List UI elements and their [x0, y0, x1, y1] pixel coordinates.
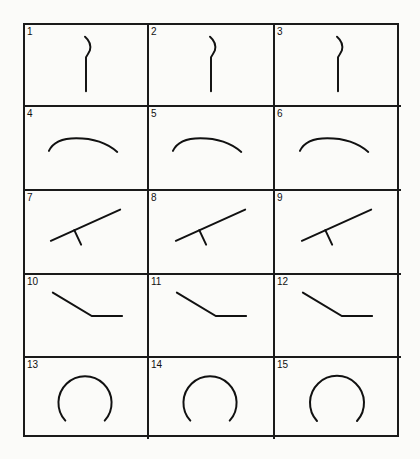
cell-4: 4: [25, 107, 149, 191]
open-circle-icon: [25, 358, 147, 439]
cell-12: 12: [275, 275, 401, 358]
inclined-line-with-tick-icon: [149, 191, 273, 273]
bent-line-icon: [25, 275, 147, 356]
cell-5: 5: [149, 107, 275, 191]
cell-10: 10: [25, 275, 149, 358]
hook-vertical-line-icon: [275, 25, 401, 105]
cell-15: 15: [275, 358, 401, 439]
inclined-line-with-tick-icon: [275, 191, 401, 273]
bent-line-icon: [275, 275, 401, 356]
inclined-line-with-tick-icon: [25, 191, 147, 273]
cell-11: 11: [149, 275, 275, 358]
cell-6: 6: [275, 107, 401, 191]
cell-8: 8: [149, 191, 275, 275]
shallow-arc-icon: [275, 107, 401, 189]
cell-3: 3: [275, 25, 401, 107]
open-circle-icon: [149, 358, 273, 439]
hook-vertical-line-icon: [149, 25, 273, 105]
shallow-arc-icon: [25, 107, 147, 189]
shape-grid: 1 2 3 4 5 6 7 8 9 10 11: [23, 23, 399, 437]
cell-14: 14: [149, 358, 275, 439]
bent-line-icon: [149, 275, 273, 356]
cell-1: 1: [25, 25, 149, 107]
open-circle-icon: [275, 358, 401, 439]
cell-9: 9: [275, 191, 401, 275]
shallow-arc-icon: [149, 107, 273, 189]
cell-13: 13: [25, 358, 149, 439]
cell-7: 7: [25, 191, 149, 275]
cell-2: 2: [149, 25, 275, 107]
hook-vertical-line-icon: [25, 25, 147, 105]
